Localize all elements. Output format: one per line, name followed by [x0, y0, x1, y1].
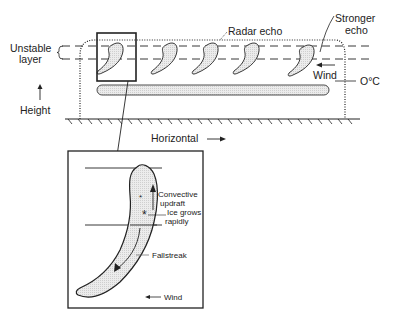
fallstreak-cloud-4 [233, 43, 259, 74]
fallstreak-cloud-2 [151, 43, 177, 74]
ice-crystal-icon-2: * [142, 208, 147, 222]
unstable-layer-label-2: layer [19, 53, 42, 65]
stronger-echo-label-2: echo [345, 24, 368, 36]
radar-echo-label: Radar echo [228, 25, 282, 37]
ice-crystal-icon-1: * [139, 193, 142, 202]
ground-line [65, 119, 360, 124]
stronger-echo-label: Stronger [335, 12, 376, 24]
unstable-brace [57, 46, 63, 59]
fallstreak-cloud-1 [97, 43, 123, 74]
horizontal-label: Horizontal [151, 132, 198, 144]
ice-grows-label-2: rapidly [165, 217, 189, 226]
fallstreak-cloud-3 [192, 43, 218, 74]
wind-label-main: Wind [313, 69, 337, 81]
wind-arrow-main [316, 63, 335, 68]
height-arrow [38, 84, 43, 100]
wind-label-inset: Wind [164, 293, 182, 302]
radar-echo-leader [220, 32, 227, 40]
fallstreak-label: Fallstreak [152, 251, 188, 260]
fallstreak-diagram: Unstable layer Height Horizontal Radar e… [0, 0, 393, 317]
convective-label: Convective [158, 190, 198, 199]
height-label: Height [20, 104, 50, 116]
stronger-echo-leader [320, 16, 334, 52]
convective-label-2: updraft [160, 199, 186, 208]
melting-band [97, 85, 329, 95]
zero-c-label: O°C [360, 75, 380, 87]
fallstreak-cloud-5 [288, 45, 314, 76]
horizontal-arrow [207, 137, 226, 142]
ice-grows-label: Ice grows [167, 208, 201, 217]
